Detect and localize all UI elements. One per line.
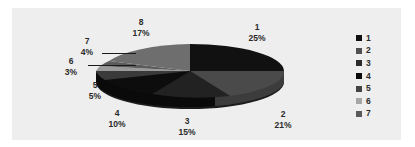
data-label-slice-8: 8 17%: [124, 17, 158, 38]
legend-item-5[interactable]: 5: [356, 82, 402, 95]
legend-swatch-icon: [356, 111, 362, 117]
data-label-category: 2: [266, 109, 300, 120]
legend-item-label: 1: [366, 34, 371, 43]
data-label-percent: 4%: [72, 47, 102, 58]
legend-item-3[interactable]: 3: [356, 57, 402, 70]
data-label-slice-4: 4 10%: [100, 108, 134, 129]
chart-panel: 1 25% 2 21% 3 15% 4 10% 5 5% 6 3%: [12, 8, 401, 140]
data-label-slice-1: 1 25%: [240, 22, 274, 43]
data-label-category: 3: [170, 116, 204, 127]
legend-swatch-icon: [356, 86, 362, 92]
legend-swatch-icon: [356, 73, 362, 79]
leader-line-slice-6: [88, 65, 136, 66]
legend-item-4[interactable]: 4: [356, 70, 402, 83]
data-label-percent: 5%: [80, 91, 110, 102]
legend-item-label: 5: [366, 84, 371, 93]
legend-item-label: 2: [366, 46, 371, 55]
legend-swatch-icon: [356, 48, 362, 54]
plot-area: 1 25% 2 21% 3 15% 4 10% 5 5% 6 3%: [12, 8, 342, 140]
pie-3d-graphic: [95, 32, 285, 110]
pie-chart-screenshot: 1 25% 2 21% 3 15% 4 10% 5 5% 6 3%: [0, 0, 415, 147]
data-label-category: 7: [72, 36, 102, 47]
legend-item-label: 3: [366, 59, 371, 68]
data-label-percent: 15%: [170, 127, 204, 138]
chart-legend: 1 2 3 4 5 6: [356, 32, 402, 120]
data-label-percent: 3%: [56, 67, 86, 78]
legend-item-label: 6: [366, 97, 371, 106]
legend-swatch-icon: [356, 35, 362, 41]
data-label-percent: 10%: [100, 119, 134, 130]
legend-item-2[interactable]: 2: [356, 45, 402, 58]
data-label-percent: 17%: [124, 28, 158, 39]
data-label-category: 4: [100, 108, 134, 119]
legend-swatch-icon: [356, 98, 362, 104]
legend-item-6[interactable]: 6: [356, 95, 402, 108]
data-label-slice-2: 2 21%: [266, 109, 300, 130]
data-label-slice-3: 3 15%: [170, 116, 204, 137]
legend-item-7[interactable]: 7: [356, 108, 402, 121]
data-label-category: 8: [124, 17, 158, 28]
pie-svg: [95, 32, 285, 110]
data-label-category: 6: [56, 56, 86, 67]
legend-item-label: 4: [366, 72, 371, 81]
data-label-category: 5: [80, 80, 110, 91]
data-label-slice-6: 6 3%: [56, 56, 86, 77]
legend-swatch-icon: [356, 60, 362, 66]
data-label-category: 1: [240, 22, 274, 33]
legend-item-label: 7: [366, 109, 371, 118]
data-label-slice-7: 7 4%: [72, 36, 102, 57]
data-label-percent: 21%: [266, 120, 300, 131]
leader-line-slice-7: [102, 53, 136, 54]
pie-slice-1[interactable]: [190, 44, 284, 71]
data-label-percent: 25%: [240, 33, 274, 44]
data-label-slice-5: 5 5%: [80, 80, 110, 101]
legend-item-1[interactable]: 1: [356, 32, 402, 45]
